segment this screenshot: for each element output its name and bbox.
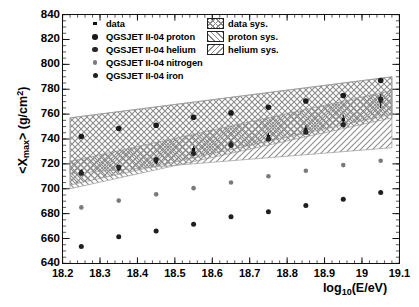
legend-item-proton-sys-[interactable]: proton sys. [207,31,299,43]
y-title-mid: > (g/cm [16,96,30,140]
series-qgsjet-ii-04-iron [79,190,383,249]
x-tick-label: 19.1 [377,267,419,279]
chart-figure: 640660680700720740760780800820840 18.218… [0,0,419,307]
x-title-subscript: 10 [342,287,352,297]
legend-label: QGSJET II-04 iron [106,71,183,81]
y-axis-title: <Xmax> (g/cm2) [15,45,31,215]
legend-label: helium sys. [228,45,279,55]
legend-hatch-swatch-cross [207,18,224,29]
legend-marker-icon [84,60,106,65]
systematics-legend: data sys.proton sys.helium sys. [207,18,299,57]
y-title-post: ) [16,87,30,91]
legend-item-data[interactable]: data [84,18,212,30]
x-title-post: (E/eV) [352,281,387,295]
legend-label: data sys. [228,19,268,29]
legend-marker-icon [84,73,106,78]
legend-label: data [106,19,125,29]
legend-marker-icon [84,22,106,25]
legend-item-qgsjet-ii-04-helium[interactable]: QGSJET II-04 helium [84,44,212,56]
y-tick-label: 660 [24,233,60,245]
legend-marker-icon [84,47,106,52]
legend-label: QGSJET II-04 helium [106,45,196,55]
series-legend: dataQGSJET II-04 protonQGSJET II-04 heli… [84,18,212,83]
legend-item-helium-sys-[interactable]: helium sys. [207,44,299,56]
y-tick-label: 840 [24,9,60,21]
legend-item-qgsjet-ii-04-iron[interactable]: QGSJET II-04 iron [84,70,212,82]
legend-hatch-swatch-slash [207,44,224,55]
x-title-pre: log [323,281,342,295]
legend-item-data-sys-[interactable]: data sys. [207,18,299,30]
y-title-pre: <X [16,158,30,174]
series-qgsjet-ii-04-proton [79,78,384,140]
legend-label: QGSJET II-04 proton [106,32,195,42]
legend-label: proton sys. [228,32,278,42]
series-qgsjet-ii-04-helium [79,97,384,176]
y-tick-label: 820 [24,33,60,45]
y-title-subscript: max [21,140,31,158]
series-qgsjet-ii-04-nitrogen [79,158,383,209]
legend-label: QGSJET II-04 nitrogen [106,58,203,68]
x-axis-title: log10(E/eV) [300,281,410,297]
series-data [80,94,383,174]
legend-item-qgsjet-ii-04-nitrogen[interactable]: QGSJET II-04 nitrogen [84,57,212,69]
legend-item-qgsjet-ii-04-proton[interactable]: QGSJET II-04 proton [84,31,212,43]
legend-marker-icon [84,34,106,40]
legend-hatch-swatch-backslash [207,31,224,42]
y-title-superscript: 2 [15,91,25,96]
